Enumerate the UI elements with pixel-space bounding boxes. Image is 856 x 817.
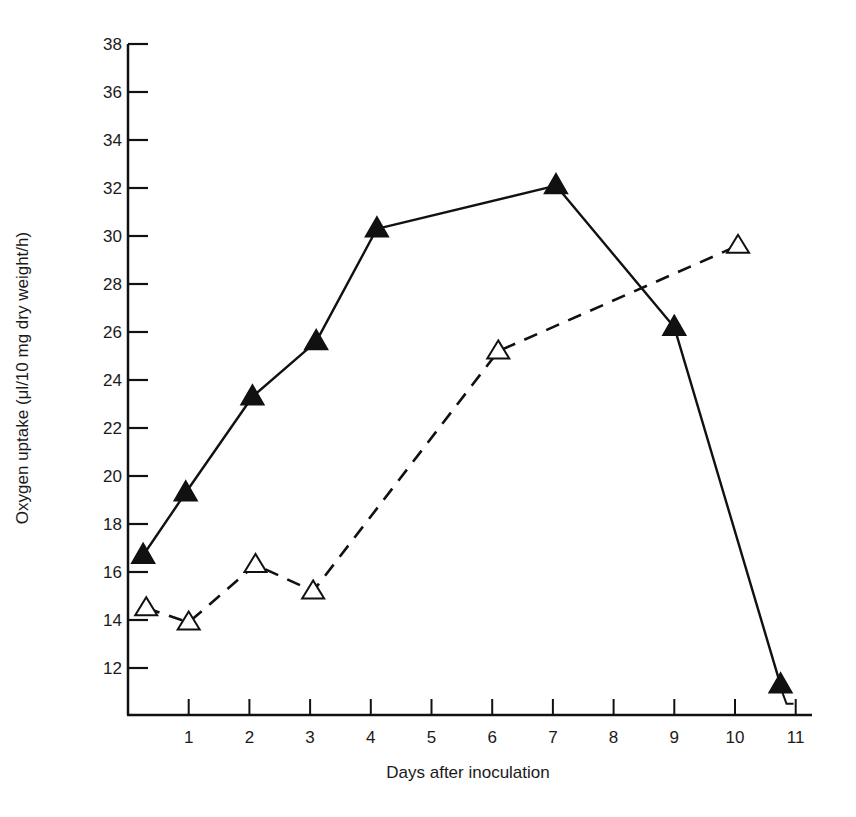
x-tick-label: 6: [487, 728, 496, 747]
filled-triangles-line: [143, 186, 780, 685]
x-axis-ticks: 1234567891011: [184, 699, 805, 747]
y-tick-label: 30: [103, 227, 122, 246]
y-tick-label: 16: [103, 563, 122, 582]
filled-triangle-marker: [305, 330, 328, 350]
y-axis-title: Oxygen uptake (μl/10 mg dry weight/h): [13, 232, 32, 524]
y-tick-label: 22: [103, 419, 122, 438]
y-tick-label: 20: [103, 467, 122, 486]
x-tick-label: 11: [787, 728, 805, 747]
filled-triangle-marker: [769, 673, 792, 693]
x-axis-title: Days after inoculation: [386, 763, 549, 782]
x-tick-label: 9: [670, 728, 679, 747]
x-tick-label: 4: [366, 728, 375, 747]
y-axis-ticks: 1214161820222426283032343638: [103, 35, 148, 678]
filled-triangle-marker: [174, 481, 197, 501]
x-tick-label: 3: [305, 728, 314, 747]
filled-triangle-marker: [241, 385, 264, 405]
x-tick-label: 1: [184, 728, 193, 747]
open-triangle-marker: [244, 554, 266, 572]
open-triangle-marker: [487, 340, 509, 358]
x-tick-label: 2: [245, 728, 254, 747]
open-triangle-marker: [727, 235, 749, 253]
y-tick-label: 12: [103, 659, 122, 678]
open-triangles-line: [146, 246, 738, 623]
y-tick-label: 36: [103, 83, 122, 102]
filled-triangle-marker: [132, 543, 155, 563]
end-hook-line: [783, 693, 794, 704]
y-tick-label: 24: [103, 371, 122, 390]
line-chart: 1214161820222426283032343638 12345678910…: [0, 0, 856, 817]
x-tick-label: 5: [427, 728, 436, 747]
open-triangle-marker: [302, 580, 324, 598]
y-tick-label: 28: [103, 275, 122, 294]
x-tick-label: 10: [726, 728, 745, 747]
filled-triangle-marker: [544, 174, 567, 194]
y-tick-label: 14: [103, 611, 122, 630]
x-tick-label: 8: [609, 728, 618, 747]
y-tick-label: 34: [103, 131, 122, 150]
axes: 1214161820222426283032343638 12345678910…: [103, 35, 812, 747]
open-triangle-marker: [135, 597, 157, 615]
y-tick-label: 18: [103, 515, 122, 534]
series-layer: [132, 174, 794, 704]
x-tick-label: 7: [548, 728, 557, 747]
series-filled-triangles: [132, 174, 792, 693]
y-tick-label: 32: [103, 179, 122, 198]
y-tick-label: 38: [103, 35, 122, 54]
y-tick-label: 26: [103, 323, 122, 342]
